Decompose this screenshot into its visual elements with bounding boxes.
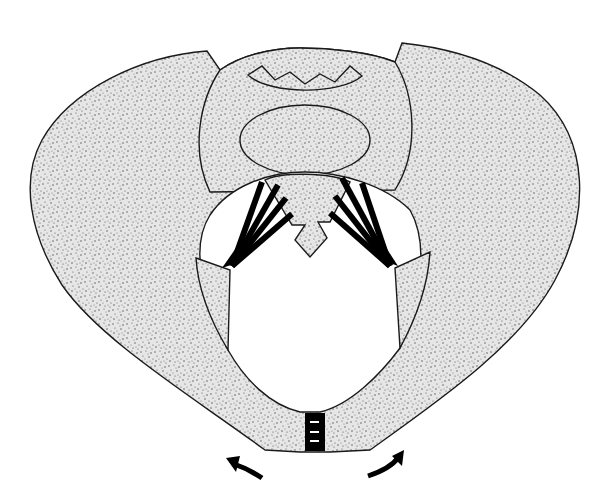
- pelvis-diagram: [0, 0, 609, 487]
- pelvis-figure: [0, 0, 609, 487]
- right-rotation-arrow: [368, 450, 404, 476]
- vertebral-body: [240, 105, 370, 175]
- left-rotation-arrow: [226, 456, 262, 478]
- pubic-symphysis: [305, 413, 325, 451]
